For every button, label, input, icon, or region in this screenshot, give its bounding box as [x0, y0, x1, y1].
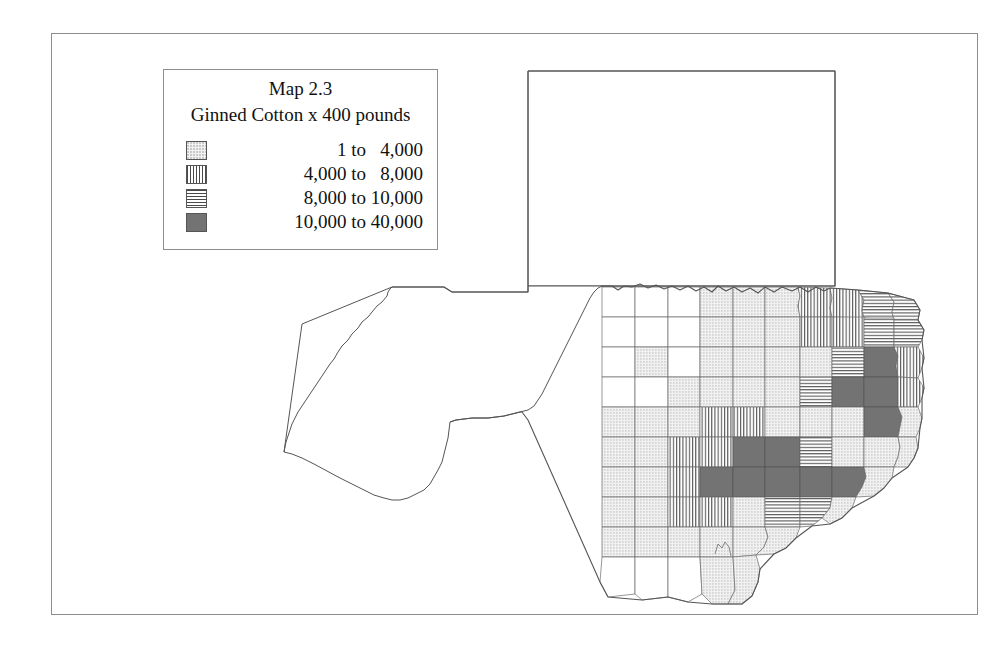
legend-entry-label: 1 to 4,000 — [207, 139, 423, 161]
legend-entry-label: 4,000 to 8,000 — [207, 163, 423, 185]
legend-entry: 10,000 to 40,000 — [186, 210, 423, 234]
legend-entry-label: 10,000 to 40,000 — [207, 211, 423, 233]
legend-swatch-solid-dark-gray-icon — [186, 213, 207, 232]
legend-entry: 8,000 to 10,000 — [186, 186, 423, 210]
map-legend: Map 2.3 Ginned Cotton x 400 pounds 1 to … — [163, 69, 438, 250]
legend-title-block: Map 2.3 Ginned Cotton x 400 pounds — [164, 70, 437, 128]
legend-entry-label: 8,000 to 10,000 — [207, 187, 423, 209]
legend-title: Map 2.3 — [164, 76, 437, 102]
legend-swatch-horizontal-lines-icon — [186, 189, 207, 208]
legend-entry: 4,000 to 8,000 — [186, 162, 423, 186]
legend-entry-list: 1 to 4,000 4,000 to 8,000 8,000 to 10,00… — [164, 138, 437, 234]
figure-frame: Map 2.3 Ginned Cotton x 400 pounds 1 to … — [51, 33, 978, 615]
legend-subtitle: Ginned Cotton x 400 pounds — [164, 102, 437, 128]
legend-swatch-light-stipple-icon — [186, 141, 207, 160]
legend-swatch-vertical-lines-icon — [186, 165, 207, 184]
legend-entry: 1 to 4,000 — [186, 138, 423, 162]
